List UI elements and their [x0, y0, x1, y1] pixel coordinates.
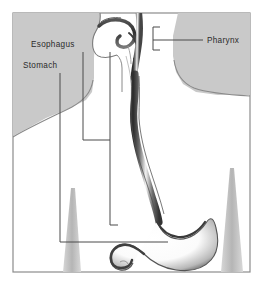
anatomy-figure: Esophagus Stomach Pharynx	[0, 0, 263, 285]
label-pharynx: Pharynx	[207, 36, 239, 45]
label-stomach: Stomach	[23, 61, 58, 70]
anatomy-illustration: Esophagus Stomach Pharynx	[0, 0, 263, 285]
label-esophagus: Esophagus	[31, 40, 75, 49]
